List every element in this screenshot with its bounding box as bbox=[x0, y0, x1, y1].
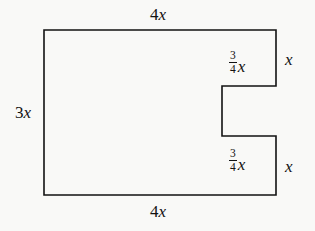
label-bottom-width-variable: x bbox=[159, 202, 167, 221]
label-bottom-width-coefficient: 4 bbox=[150, 202, 159, 221]
fraction-denominator: 4 bbox=[229, 62, 237, 75]
label-lower-arm-height-variable: x bbox=[285, 157, 293, 176]
geometry-figure: 4x 3x 4x 3 4 x 3 4 x x x bbox=[0, 0, 315, 231]
figure-outline-canvas bbox=[0, 0, 315, 231]
label-upper-arm-length: 3 4 x bbox=[229, 50, 245, 76]
label-left-height: 3x bbox=[15, 104, 31, 121]
label-lower-arm-height: x bbox=[285, 158, 293, 175]
label-left-height-variable: x bbox=[24, 103, 32, 122]
label-upper-arm-height: x bbox=[285, 51, 293, 68]
label-lower-arm-length: 3 4 x bbox=[229, 148, 245, 174]
label-left-height-coefficient: 3 bbox=[15, 103, 24, 122]
label-lower-arm-length-variable: x bbox=[238, 156, 246, 174]
label-top-width-variable: x bbox=[159, 5, 167, 24]
label-upper-arm-length-variable: x bbox=[238, 58, 246, 76]
label-top-width-coefficient: 4 bbox=[150, 5, 159, 24]
fraction-numerator: 3 bbox=[229, 148, 237, 160]
fraction-numerator: 3 bbox=[229, 50, 237, 62]
label-upper-arm-height-variable: x bbox=[285, 50, 293, 69]
fraction-three-quarters-upper: 3 4 bbox=[229, 50, 237, 76]
label-top-width: 4x bbox=[150, 6, 166, 23]
label-bottom-width: 4x bbox=[150, 203, 166, 220]
fraction-denominator: 4 bbox=[229, 160, 237, 173]
fraction-three-quarters-lower: 3 4 bbox=[229, 148, 237, 174]
